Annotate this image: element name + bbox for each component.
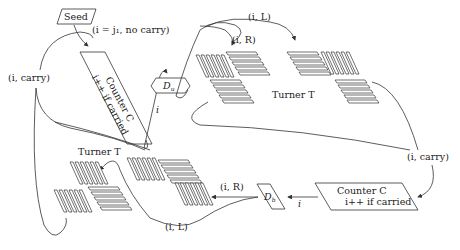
edge-label-top-L: (i, L) [248, 11, 271, 22]
edge-label-seed-to-counter: (i = j₁, no carry) [92, 24, 170, 35]
edge-label-bottom-L: (i, L) [165, 221, 188, 232]
turner-bottom-left [54, 162, 132, 212]
diagram-canvas: Seed (i = j₁, no carry) Counter C i++ if… [0, 0, 460, 250]
turner-bottom-label: Turner T [78, 146, 121, 157]
counter-top-node: Counter C i++ if carried [80, 52, 152, 144]
edge-loop-left-top [40, 32, 93, 70]
edge-label-top-R: (i, R) [232, 34, 256, 45]
edge-seed-to-counter [74, 25, 88, 46]
edge-turner-top-out [372, 82, 418, 150]
counter-bottom-node: Counter C i++ if carried [315, 183, 418, 210]
edge-label-counter-to-db: i [298, 198, 301, 209]
edge-label-bottom-R: (i, R) [220, 181, 244, 192]
turner-top-left [196, 52, 270, 103]
edge-label-right-carry: (i, carry) [407, 151, 449, 162]
edge-label-loop-left: (i, carry) [8, 72, 50, 83]
edge-top-R [200, 26, 233, 45]
counter-bottom-subtitle: i++ if carried [345, 196, 411, 207]
edge-loop-left-bottom [34, 88, 66, 235]
edge-label-counter-to-du: i [156, 104, 159, 115]
turner-top-label: Turner T [272, 89, 315, 100]
counter-bottom-title: Counter C [337, 185, 387, 196]
turner-bottom-right [127, 158, 213, 205]
seed-node: Seed [57, 9, 96, 24]
edge-right-carry-to-counter [418, 165, 433, 197]
db-node: Db [257, 184, 285, 209]
du-node: Du [151, 78, 190, 93]
edge-turner-top-loop [192, 102, 410, 150]
seed-label: Seed [64, 11, 88, 22]
